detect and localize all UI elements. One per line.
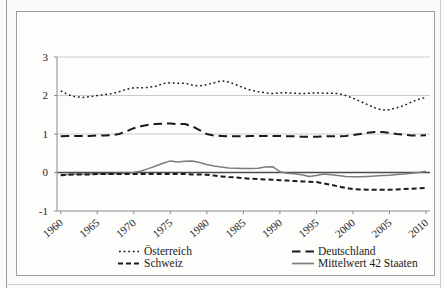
- solid-line-legend-key-icon: [292, 259, 314, 268]
- scanned-page: { "figure": { "frame_border_color": "#9d…: [0, 0, 445, 288]
- dotted-line-legend-key-icon: [118, 247, 140, 256]
- legend-label-deutschland: Deutschland: [318, 246, 375, 256]
- legend-label-oesterreich: Österreich: [144, 246, 192, 256]
- x-tick-label: 1975: [150, 216, 175, 240]
- x-tick-label: 1965: [77, 216, 102, 240]
- x-tick-label: 2000: [333, 216, 358, 240]
- x-tick-label: 1980: [187, 216, 212, 240]
- y-tick-label: 1: [43, 128, 49, 140]
- series-line-mittelwert-42-staaten: [61, 161, 426, 177]
- legend-label-schweiz: Schweiz: [144, 258, 183, 268]
- legend-entry-deutschland: Deutschland: [292, 246, 375, 256]
- legend-entry-schweiz: Schweiz: [118, 258, 183, 268]
- y-tick-label: 0: [43, 166, 49, 178]
- chart-plot: 3210-11960196519701975198019851990199520…: [17, 12, 434, 275]
- legend-entry-mittelwert: Mittelwert 42 Staaten: [292, 258, 418, 268]
- x-tick-label: 1960: [40, 216, 65, 240]
- legend-entry-oesterreich: Österreich: [118, 246, 192, 256]
- page-border-right: [440, 0, 441, 288]
- dash-line-legend-key-icon: [118, 259, 140, 268]
- legend-label-mittelwert: Mittelwert 42 Staaten: [318, 258, 418, 268]
- y-tick-label: -1: [39, 205, 48, 217]
- y-tick-label: 2: [43, 89, 49, 101]
- x-tick-label: 1990: [260, 216, 285, 240]
- x-tick-label: 2010: [406, 216, 431, 240]
- page-border-left: [6, 0, 7, 288]
- figure-frame: 3210-11960196519701975198019851990199520…: [16, 11, 435, 276]
- x-tick-label: 1985: [223, 216, 248, 240]
- series-line-deutschland: [61, 124, 426, 137]
- y-tick-label: 3: [43, 51, 49, 63]
- x-tick-label: 1970: [113, 216, 138, 240]
- x-tick-label: 1995: [296, 216, 321, 240]
- page-border-bottom: [6, 284, 441, 285]
- x-tick-label: 2005: [369, 216, 394, 240]
- long-dash-line-legend-key-icon: [292, 247, 314, 256]
